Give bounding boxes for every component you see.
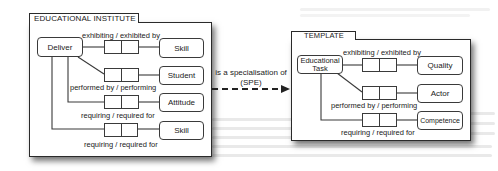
quality-node: Quality [417,56,463,75]
relation-label: requiring / required for [341,129,415,137]
actor-node: Actor [417,84,463,103]
educational-task-node: Educational Task [297,55,343,74]
competence-node: Competence [417,111,463,130]
relation-label: performed by / performing [331,102,417,110]
relation-label: exhibiting / exhibited by [343,49,421,57]
relation-connector [362,58,397,72]
relation-connector [362,113,397,127]
relation-connector [362,86,397,100]
